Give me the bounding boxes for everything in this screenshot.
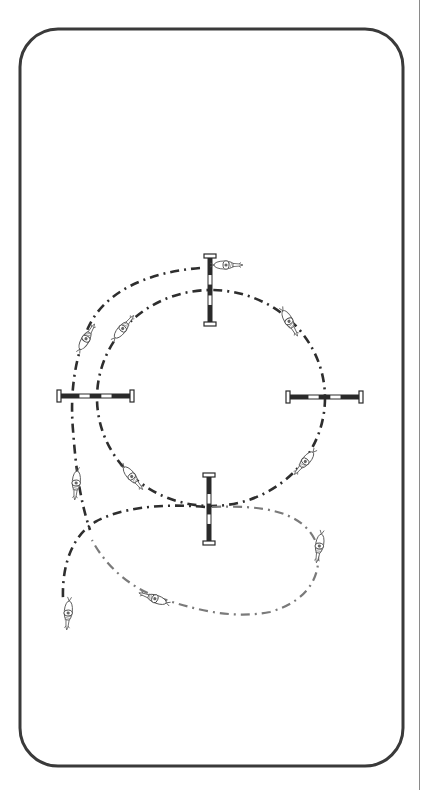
horse-top-icon	[210, 261, 243, 269]
horse-exit-left-icon	[63, 597, 74, 631]
horse-upper-left-inner-icon	[109, 313, 137, 344]
page-margin-line	[419, 0, 420, 790]
pole-bottom	[203, 473, 215, 545]
exit-left-path	[63, 506, 205, 598]
exit-loop-path	[92, 507, 318, 615]
pole-left	[57, 390, 134, 402]
route-paths	[63, 268, 318, 615]
horse-lower-right-icon	[291, 447, 319, 478]
outer-approach-path	[72, 268, 200, 530]
horse-upper-left-outer-icon	[74, 322, 98, 355]
horse-bottom-icon	[137, 589, 171, 608]
arena-diagram	[0, 0, 433, 790]
horse-upper-right-icon	[277, 305, 301, 338]
horse-markers	[63, 261, 327, 631]
ground-poles	[57, 254, 363, 545]
